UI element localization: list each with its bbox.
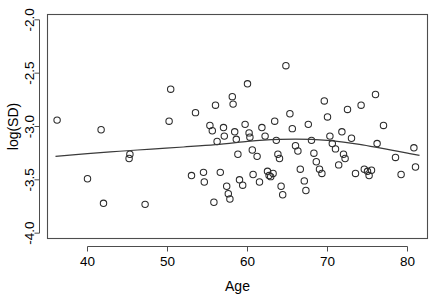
data-point — [168, 86, 174, 92]
data-point — [256, 179, 262, 185]
data-point — [233, 136, 239, 142]
data-point — [232, 129, 238, 135]
data-point — [358, 102, 364, 108]
x-axis-tick-label: 50 — [160, 254, 175, 269]
data-point — [412, 164, 418, 170]
data-point — [313, 159, 319, 165]
data-point — [211, 199, 217, 205]
data-point — [214, 138, 220, 144]
data-point — [242, 121, 248, 127]
data-point — [305, 121, 311, 127]
data-point — [98, 127, 104, 133]
data-points-group — [54, 62, 419, 207]
data-point — [374, 140, 380, 146]
plot-frame — [48, 15, 428, 239]
data-point — [166, 118, 172, 124]
data-point — [275, 151, 281, 157]
data-point — [342, 155, 348, 161]
data-point — [301, 178, 307, 184]
plot-frame-group — [48, 15, 428, 239]
data-point — [289, 125, 295, 131]
data-point — [217, 169, 223, 175]
data-point — [411, 145, 417, 151]
data-point — [380, 122, 386, 128]
data-point — [209, 128, 215, 134]
plot-canvas: -2.0-2.5-3.0-3.5-4.0 4050607080 Age log(… — [0, 0, 442, 305]
data-point — [392, 154, 398, 160]
data-point — [303, 187, 309, 193]
data-point — [200, 169, 206, 175]
data-point — [398, 171, 404, 177]
data-point — [311, 150, 317, 156]
data-point — [235, 151, 241, 157]
data-point — [372, 91, 378, 97]
data-point — [192, 109, 198, 115]
data-point — [327, 133, 333, 139]
data-point — [287, 111, 293, 117]
data-point — [324, 114, 330, 120]
data-point — [188, 172, 194, 178]
data-point — [224, 183, 230, 189]
data-point — [244, 81, 250, 87]
data-point — [297, 166, 303, 172]
data-point — [254, 153, 260, 159]
data-point — [249, 147, 255, 153]
data-point — [321, 98, 327, 104]
y-axis-tick-label: -3.5 — [22, 168, 37, 191]
data-point — [84, 176, 90, 182]
data-point — [240, 182, 246, 188]
data-point — [220, 124, 226, 130]
data-point — [212, 102, 218, 108]
data-point — [259, 124, 265, 130]
data-point — [276, 155, 282, 161]
data-point — [339, 129, 345, 135]
data-point — [308, 137, 314, 143]
y-axis: -2.0-2.5-3.0-3.5-4.0 — [22, 8, 39, 245]
data-point — [336, 162, 342, 168]
data-point — [221, 133, 227, 139]
data-point — [332, 146, 338, 152]
data-point — [54, 117, 60, 123]
x-axis: 4050607080 — [80, 247, 415, 269]
data-point — [230, 101, 236, 107]
data-point — [278, 183, 284, 189]
data-point — [272, 118, 278, 124]
data-point — [368, 167, 374, 173]
data-point — [280, 192, 286, 198]
y-axis-tick-label: -4.0 — [22, 222, 37, 245]
scatter-plot-figure: -2.0-2.5-3.0-3.5-4.0 4050607080 Age log(… — [0, 0, 442, 305]
data-point — [295, 148, 301, 154]
data-point — [283, 62, 289, 68]
data-point — [201, 179, 207, 185]
y-axis-tick-label: -3.0 — [22, 115, 37, 138]
data-point — [142, 201, 148, 207]
y-axis-tick-label: -2.0 — [22, 8, 37, 31]
y-axis-title: log(SD) — [5, 103, 21, 150]
data-point — [100, 200, 106, 206]
x-axis-tick-label: 80 — [400, 254, 415, 269]
data-point — [229, 93, 235, 99]
data-point — [340, 151, 346, 157]
x-axis-tick-label: 60 — [240, 254, 255, 269]
data-point — [344, 106, 350, 112]
x-axis-title: Age — [225, 278, 250, 294]
data-point — [348, 135, 354, 141]
data-point — [247, 134, 253, 140]
x-axis-tick-label: 40 — [80, 254, 95, 269]
x-axis-tick-label: 70 — [320, 254, 335, 269]
data-point — [127, 151, 133, 157]
data-point — [273, 137, 279, 143]
data-point — [262, 133, 268, 139]
data-point — [352, 170, 358, 176]
data-point — [250, 171, 256, 177]
y-axis-tick-label: -2.5 — [22, 62, 37, 85]
